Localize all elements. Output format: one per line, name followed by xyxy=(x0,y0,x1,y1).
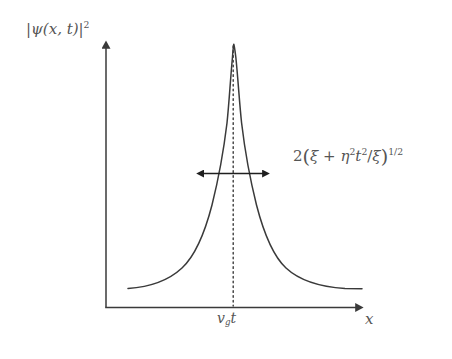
x-tick-label-vgt: vgt xyxy=(217,311,236,325)
tick-label-t: t xyxy=(230,310,236,326)
y-axis-label-exponent: 2 xyxy=(84,19,90,30)
figure-container: |ψ(x, t)|2 x vgt 2(ξ + η2t2/ξ)1/2 xyxy=(0,0,452,359)
y-axis-label: |ψ(x, t)|2 xyxy=(26,22,90,37)
plot-canvas xyxy=(0,0,452,359)
annotation-open-paren: ( xyxy=(303,145,311,168)
annotation-outer-exponent: 1/2 xyxy=(388,146,403,157)
wave-packet-curve xyxy=(128,44,362,289)
annotation-close-paren: ) xyxy=(381,145,389,168)
tick-label-v: v xyxy=(217,310,225,326)
width-annotation: 2(ξ + η2t2/ξ)1/2 xyxy=(293,147,403,166)
annotation-coefficient: 2 xyxy=(293,147,303,165)
annotation-term-xi-2: ξ xyxy=(372,147,380,165)
y-axis-label-text: |ψ(x, t)| xyxy=(26,20,84,38)
x-axis-label: x xyxy=(365,312,373,327)
annotation-plus: + xyxy=(318,147,340,165)
